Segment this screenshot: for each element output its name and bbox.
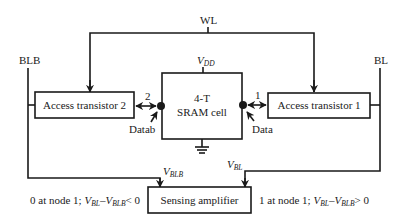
sram-read-diagram: WL BLB VBLB BL VBL Access transistor 2 A… bbox=[0, 0, 404, 224]
sram-cell-label-line2: SRAM cell bbox=[177, 106, 227, 118]
node-2-dot bbox=[157, 102, 165, 110]
access-transistor-2-label: Access transistor 2 bbox=[43, 99, 126, 111]
annotation-left: 0 at node 1; VBL–VBLB< 0 bbox=[30, 194, 140, 208]
datab-label: Datab bbox=[129, 123, 156, 135]
node-2-label: 2 bbox=[145, 90, 151, 102]
blb-label: BLB bbox=[19, 54, 40, 66]
annotation-right: 1 at node 1; VBL–VBLB> 0 bbox=[259, 194, 369, 208]
node-1-label: 1 bbox=[255, 89, 261, 101]
access-transistor-1-label: Access transistor 1 bbox=[277, 99, 360, 111]
bl-label: BL bbox=[374, 54, 388, 66]
data-arrow bbox=[247, 112, 254, 121]
data-label: Data bbox=[252, 123, 273, 135]
sensing-amplifier-label: Sensing amplifier bbox=[161, 194, 239, 206]
vdd-label: VDD bbox=[197, 54, 215, 68]
sram-cell-label-line1: 4-T bbox=[194, 92, 210, 104]
vblb-label: VBLB bbox=[163, 165, 183, 179]
wl-label: WL bbox=[200, 14, 217, 26]
node-1-dot bbox=[239, 101, 247, 109]
datab-arrow bbox=[151, 112, 157, 122]
vbl-label: VBL bbox=[227, 158, 243, 172]
ground-icon bbox=[195, 139, 209, 153]
